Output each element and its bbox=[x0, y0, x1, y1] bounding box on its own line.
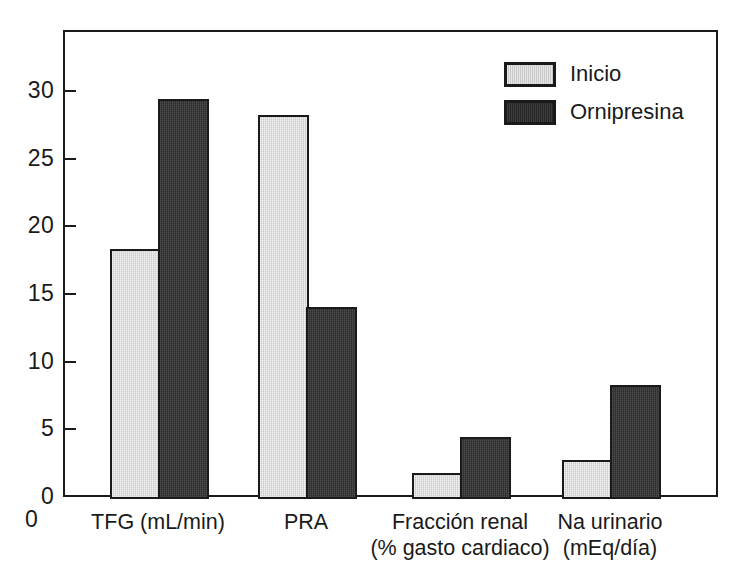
bar-ornipresina-group-2 bbox=[306, 307, 357, 499]
bar-inicio-group-1 bbox=[110, 249, 161, 499]
y-tick-label-5: 5 bbox=[41, 417, 54, 440]
bar-inicio-group-4 bbox=[562, 460, 613, 499]
x-axis-label-1-line1: TFG (mL/min) bbox=[91, 510, 225, 534]
legend-swatch-ornipresina bbox=[504, 100, 556, 125]
y-tick-label-25: 25 bbox=[28, 147, 54, 170]
origin-zero-label: 0 bbox=[25, 508, 38, 531]
y-tick-label-30: 30 bbox=[28, 79, 54, 102]
y-tick-label-10: 10 bbox=[28, 350, 54, 373]
y-tick-label-20: 20 bbox=[28, 214, 54, 237]
x-axis-label-4-line1: Na urinario bbox=[557, 510, 662, 534]
bar-inicio-group-3 bbox=[412, 473, 463, 500]
x-axis-label-4-line2: (mEq/día) bbox=[500, 535, 720, 561]
y-tick-mark-20 bbox=[63, 225, 76, 227]
legend-swatch-inicio bbox=[504, 62, 556, 87]
legend-entry-inicio: Inicio bbox=[504, 58, 684, 90]
bar-inicio-group-2 bbox=[258, 115, 309, 499]
y-tick-mark-30 bbox=[63, 90, 76, 92]
y-tick-label-15: 15 bbox=[28, 282, 54, 305]
chart-legend: Inicio Ornipresina bbox=[504, 58, 684, 134]
bar-ornipresina-group-3 bbox=[460, 437, 511, 499]
legend-label-inicio: Inicio bbox=[570, 63, 621, 85]
y-tick-mark-15 bbox=[63, 293, 76, 295]
legend-entry-ornipresina: Ornipresina bbox=[504, 96, 684, 128]
chart-figure: 051015202530 TFG (mL/min)PRAFracción ren… bbox=[0, 0, 743, 583]
legend-label-ornipresina: Ornipresina bbox=[570, 101, 684, 123]
bar-ornipresina-group-4 bbox=[610, 385, 661, 500]
y-tick-label-0: 0 bbox=[41, 485, 54, 508]
bar-ornipresina-group-1 bbox=[158, 99, 209, 499]
y-tick-mark-25 bbox=[63, 158, 76, 160]
y-tick-mark-10 bbox=[63, 361, 76, 363]
x-axis-label-4: Na urinario(mEq/día) bbox=[500, 509, 720, 561]
y-tick-mark-5 bbox=[63, 428, 76, 430]
